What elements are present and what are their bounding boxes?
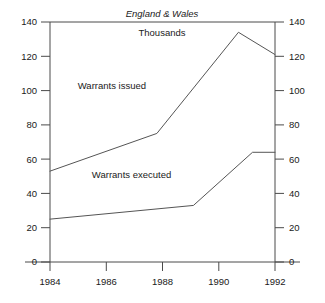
y-axis-left: 140 120 100 80 60 40 20 0 <box>21 16 50 267</box>
y-label-right-2: 100 <box>289 85 305 96</box>
y-label-left-3: 80 <box>26 119 37 130</box>
x-label-0: 1984 <box>39 276 60 287</box>
x-label-4: 1992 <box>264 276 285 287</box>
x-label-1: 1986 <box>96 276 117 287</box>
chart-container: England & Wales Thousands 140 120 100 80… <box>0 0 325 303</box>
series-label-warrants-issued: Warrants issued <box>78 80 146 91</box>
x-label-3: 1990 <box>208 276 229 287</box>
y-label-left-0: 140 <box>21 16 37 27</box>
y-label-left-4: 60 <box>26 154 37 165</box>
x-label-2: 1988 <box>152 276 173 287</box>
y-label-left-1: 120 <box>21 51 37 62</box>
y-label-right-7: 0 <box>289 256 294 267</box>
line-chart: England & Wales Thousands 140 120 100 80… <box>0 0 325 303</box>
y-label-right-6: 20 <box>289 222 300 233</box>
series-line-warrants-executed <box>50 152 275 219</box>
y-label-right-3: 80 <box>289 119 300 130</box>
y-label-right-0: 140 <box>289 16 305 27</box>
y-label-right-1: 120 <box>289 51 305 62</box>
series-line-warrants-issued <box>50 32 275 171</box>
y-label-left-5: 40 <box>26 188 37 199</box>
chart-subtitle-units: Thousands <box>138 27 185 38</box>
chart-title: England & Wales <box>126 8 199 19</box>
y-label-left-2: 100 <box>21 85 37 96</box>
y-label-right-4: 60 <box>289 154 300 165</box>
y-label-left-7: 0 <box>32 256 37 267</box>
y-axis-right: 140 120 100 80 60 40 20 0 <box>275 16 305 267</box>
x-axis: 1984 1986 1988 1990 1992 <box>39 262 285 287</box>
y-label-left-6: 20 <box>26 222 37 233</box>
y-label-right-5: 40 <box>289 188 300 199</box>
series-label-warrants-executed: Warrants executed <box>92 169 171 180</box>
